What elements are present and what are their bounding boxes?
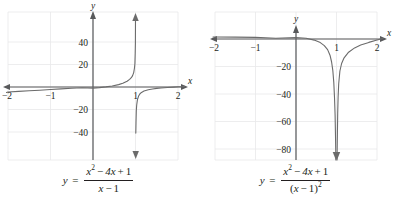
fraction: x2−4x+1 x−1 bbox=[84, 165, 133, 196]
y-tick-label: 20 bbox=[79, 60, 89, 70]
denominator-term1: x bbox=[294, 182, 299, 194]
y-tick-label: −20 bbox=[276, 62, 291, 72]
figure-rational-functions: 40 20 −20 −40 −2 −1 1 2 x y y bbox=[0, 0, 394, 210]
x-axis-label: x bbox=[386, 28, 392, 38]
x-tick-label: 2 bbox=[375, 43, 380, 53]
denominator-exponent: 2 bbox=[318, 180, 322, 189]
numerator-term2: 4x bbox=[302, 165, 312, 177]
plot-right-svg: −20 −40 −60 −80 −2 −1 1 2 x y bbox=[197, 0, 394, 165]
y-tick-label: −40 bbox=[276, 90, 291, 100]
numerator-op1: − bbox=[292, 165, 302, 177]
denominator-term2: 1 bbox=[114, 182, 120, 194]
numerator-term3: 1 bbox=[126, 165, 132, 177]
y-axis-label: y bbox=[90, 1, 96, 11]
denominator-op1: − bbox=[299, 182, 309, 194]
x-tick-label: −2 bbox=[2, 91, 12, 101]
equals-sign: = bbox=[267, 174, 277, 186]
y-tick-label: −20 bbox=[73, 105, 88, 115]
plot-left-svg: 40 20 −20 −40 −2 −1 1 2 x y bbox=[0, 0, 197, 165]
x-tick-label: −1 bbox=[250, 43, 260, 53]
denominator-op1: − bbox=[103, 182, 113, 194]
y-tick-label: −80 bbox=[276, 145, 291, 155]
numerator-op2: + bbox=[116, 165, 126, 177]
equation-right-math: y = x2−4x+1 (x−1)2 bbox=[260, 166, 332, 197]
x-tick-label: 1 bbox=[133, 91, 138, 101]
x-axis-label: x bbox=[187, 76, 193, 86]
numerator-op1: − bbox=[95, 165, 105, 177]
numerator: x2−4x+1 bbox=[84, 165, 133, 181]
x-tick-label: 1 bbox=[334, 43, 339, 53]
branch-up-arrow bbox=[132, 13, 138, 21]
denominator: (x−1)2 bbox=[281, 181, 330, 196]
axes bbox=[3, 11, 188, 160]
x-axis-arrow-left bbox=[3, 84, 10, 90]
denominator: x−1 bbox=[84, 181, 133, 196]
branch-down-arrow bbox=[133, 151, 139, 159]
numerator-term3: 1 bbox=[323, 165, 329, 177]
y-axis-arrow-up bbox=[293, 25, 299, 33]
equation-left-math: y = x2−4x+1 x−1 bbox=[63, 166, 135, 197]
curve-left-branch bbox=[213, 37, 336, 160]
curve-right-branch bbox=[337, 38, 383, 160]
curve bbox=[7, 18, 185, 133]
panel-left: 40 20 −20 −40 −2 −1 1 2 x y y bbox=[0, 0, 197, 210]
y-axis-label: y bbox=[293, 14, 299, 24]
x-tick-labels: −2 −1 1 2 bbox=[2, 91, 181, 101]
x-tick-label: 2 bbox=[176, 91, 181, 101]
y-tick-label: 40 bbox=[79, 38, 89, 48]
numerator-term2: 4x bbox=[105, 165, 115, 177]
equation-left: y = x2−4x+1 x−1 bbox=[0, 166, 197, 197]
y-tick-label: −40 bbox=[73, 128, 88, 138]
plot-right: −20 −40 −60 −80 −2 −1 1 2 x y bbox=[197, 0, 394, 165]
equation-right: y = x2−4x+1 (x−1)2 bbox=[197, 166, 394, 197]
numerator-op2: + bbox=[313, 165, 323, 177]
x-tick-label: −1 bbox=[45, 91, 55, 101]
plot-left: 40 20 −20 −40 −2 −1 1 2 x y bbox=[0, 0, 197, 165]
y-tick-label: −60 bbox=[276, 117, 291, 127]
equation-lhs: y bbox=[63, 174, 68, 186]
curve bbox=[213, 37, 383, 160]
fraction: x2−4x+1 (x−1)2 bbox=[281, 165, 330, 196]
y-tick-labels: −20 −40 −60 −80 bbox=[276, 62, 291, 155]
x-tick-label: −2 bbox=[209, 43, 219, 53]
panel-right: −20 −40 −60 −80 −2 −1 1 2 x y y bbox=[197, 0, 394, 210]
curve-left-branch bbox=[7, 18, 136, 93]
equals-sign: = bbox=[70, 174, 80, 186]
numerator: x2−4x+1 bbox=[281, 165, 330, 181]
equation-lhs: y bbox=[260, 174, 265, 186]
